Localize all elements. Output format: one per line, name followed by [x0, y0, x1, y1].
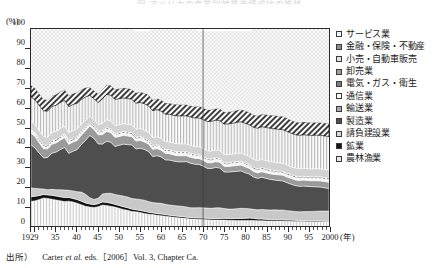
- x-tick-mark: [195, 227, 196, 230]
- x-tick-label: 75: [220, 233, 229, 242]
- x-tick-mark: [254, 227, 255, 230]
- x-axis-unit-label: (年): [340, 233, 355, 242]
- legend-item[interactable]: 通信業: [336, 90, 439, 102]
- y-tick-label: 20: [17, 177, 26, 186]
- x-tick-mark: [305, 227, 306, 230]
- x-tick-mark: [47, 227, 48, 230]
- x-tick-mark: [72, 227, 73, 230]
- y-tick-mark: [25, 187, 30, 188]
- x-tick-mark: [89, 227, 90, 230]
- legend-swatch-icon: [336, 81, 342, 87]
- legend-item[interactable]: 製造業: [336, 115, 439, 127]
- x-tick-label: 50: [114, 233, 123, 242]
- x-tick-label: 90: [283, 233, 292, 242]
- legend-item-label: 通信業: [346, 92, 372, 101]
- legend-item[interactable]: 農林漁業: [336, 152, 439, 164]
- x-tick-mark: [68, 227, 69, 230]
- x-tick-mark: [43, 227, 44, 230]
- legend-swatch-icon: [336, 156, 342, 162]
- x-tick-label: 65: [178, 233, 187, 242]
- x-tick-mark: [229, 227, 230, 230]
- x-tick-mark: [165, 227, 166, 230]
- y-tick-label: 100: [12, 18, 25, 27]
- x-tick-mark: [233, 227, 234, 230]
- source-author: Carter: [42, 252, 65, 262]
- y-tick-label: 80: [17, 58, 26, 67]
- x-tick-mark: [216, 227, 217, 230]
- legend-item[interactable]: サービス業: [336, 28, 439, 40]
- x-tick-mark: [275, 227, 276, 230]
- x-tick-mark: [300, 227, 301, 230]
- x-tick-mark: [191, 227, 192, 230]
- x-tick-mark: [144, 227, 145, 230]
- x-tick-mark: [131, 227, 132, 230]
- y-axis-tick-labels: 0102030405060708090100: [0, 22, 27, 233]
- legend-item-label: 電気・ガス・衛生: [346, 79, 416, 88]
- x-tick-label: 40: [72, 233, 81, 242]
- x-tick-mark: [199, 227, 200, 230]
- x-tick-mark: [60, 227, 61, 230]
- x-tick-mark: [279, 227, 280, 230]
- y-tick-label: 70: [17, 78, 26, 87]
- figure-title: 図 アメリカの産業別就業者構成比の推移: [0, 0, 439, 4]
- x-tick-mark: [110, 227, 111, 230]
- legend-item-label: 製造業: [346, 117, 372, 126]
- x-tick-label: 35: [51, 233, 60, 242]
- x-tick-mark: [157, 227, 158, 230]
- legend-swatch-icon: [336, 93, 342, 99]
- x-tick-label: 85: [262, 233, 271, 242]
- y-tick-label: 10: [17, 197, 26, 206]
- x-tick-mark: [212, 227, 213, 230]
- x-tick-mark: [127, 227, 128, 230]
- legend-item[interactable]: 鉱業: [336, 140, 439, 152]
- x-tick-mark: [115, 227, 116, 230]
- x-tick-mark: [258, 227, 259, 230]
- x-tick-mark: [85, 227, 86, 230]
- x-tick-mark: [178, 227, 179, 230]
- x-tick-mark: [51, 227, 52, 230]
- x-axis-tick-labels: 1929354045505560657075808590952000(年): [0, 233, 439, 245]
- legend-item-label: 金融・保険・不動産: [346, 42, 425, 51]
- x-tick-mark: [81, 227, 82, 230]
- x-tick-mark: [186, 227, 187, 230]
- y-tick-mark: [25, 167, 30, 168]
- x-tick-label: 55: [136, 233, 145, 242]
- legend-item[interactable]: 卸売業: [336, 65, 439, 77]
- figure-stacked-area-us-industry-employment: 図 アメリカの産業別就業者構成比の推移 (%) 0102030405060708…: [0, 0, 439, 268]
- x-tick-mark: [106, 227, 107, 230]
- x-tick-mark: [174, 227, 175, 230]
- plot-area: [30, 28, 330, 227]
- x-tick-mark: [326, 227, 327, 230]
- x-tick-label: 2000: [322, 233, 339, 242]
- x-tick-label: 45: [93, 233, 102, 242]
- legend-item[interactable]: 輸送業: [336, 103, 439, 115]
- x-tick-mark: [102, 227, 103, 230]
- y-tick-mark: [25, 147, 30, 148]
- y-tick-label: 60: [17, 98, 26, 107]
- legend-item[interactable]: 小売・自動車販売: [336, 53, 439, 65]
- x-tick-mark: [38, 227, 39, 230]
- x-tick-mark: [220, 227, 221, 230]
- x-tick-mark: [148, 227, 149, 230]
- x-tick-mark: [262, 227, 263, 230]
- y-tick-label: 0: [21, 217, 25, 226]
- legend: サービス業金融・保険・不動産小売・自動車販売卸売業電気・ガス・衛生通信業輸送業製…: [336, 28, 439, 165]
- legend-item[interactable]: 金融・保険・不動産: [336, 40, 439, 52]
- legend-swatch-icon: [336, 143, 342, 149]
- legend-swatch-icon: [336, 44, 342, 50]
- legend-item-label: サービス業: [346, 30, 390, 39]
- y-tick-label: 30: [17, 157, 26, 166]
- legend-swatch-icon: [336, 118, 342, 124]
- x-tick-mark: [296, 227, 297, 230]
- x-tick-mark: [292, 227, 293, 230]
- y-tick-mark: [25, 48, 30, 49]
- source-rest: eds.［2006］Vol. 3, Chapter Ca.: [83, 252, 199, 262]
- legend-swatch-icon: [336, 106, 342, 112]
- x-tick-mark: [123, 227, 124, 230]
- x-tick-mark: [284, 227, 285, 230]
- legend-item[interactable]: 電気・ガス・衛生: [336, 78, 439, 90]
- legend-item[interactable]: 請負建設業: [336, 128, 439, 140]
- y-tick-label: 40: [17, 137, 26, 146]
- x-tick-mark: [322, 227, 323, 230]
- y-tick-mark: [25, 88, 30, 89]
